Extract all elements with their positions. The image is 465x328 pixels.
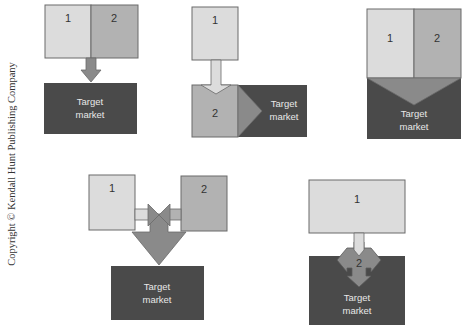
target-label-line2: market: [342, 305, 371, 316]
label-1: 1: [387, 32, 393, 44]
label-2: 2: [434, 32, 440, 44]
label-1: 1: [109, 182, 115, 194]
diagram-4: 1 2 Target market: [89, 175, 227, 320]
box-1: [309, 180, 405, 233]
copyright-notice: Copyright © Kendall Hunt Publishing Comp…: [4, 0, 20, 328]
target-label-line2: market: [75, 109, 104, 120]
connector-left: [135, 209, 149, 220]
label-1: 1: [354, 193, 360, 205]
label-2: 2: [212, 107, 218, 119]
label-2: 2: [201, 183, 207, 195]
target-label-line2: market: [269, 111, 298, 122]
label-2: 2: [356, 257, 362, 269]
target-label-line2: market: [399, 121, 428, 132]
diagram-5: 1 2 Target market: [309, 180, 405, 325]
target-label-line1: Target: [344, 292, 371, 303]
target-market-box: [111, 266, 204, 320]
diagram-1: 1 2 Target market: [44, 5, 138, 134]
connector-right: [169, 209, 181, 220]
diagram-canvas: 1 2 Target market 1 2 Target market 1 2 …: [0, 0, 465, 328]
label-1: 1: [65, 12, 71, 24]
target-label-line2: market: [142, 294, 171, 305]
diagram-3: 1 2 Target market: [367, 9, 461, 139]
arrow-down-icon: [81, 58, 101, 82]
label-2: 2: [111, 12, 117, 24]
target-label-line1: Target: [401, 108, 428, 119]
label-1: 1: [212, 14, 218, 26]
target-label-line1: Target: [77, 96, 104, 107]
target-label-line1: Target: [144, 281, 171, 292]
target-label-line1: Target: [271, 98, 298, 109]
diagram-2: 1 2 Target market: [192, 7, 307, 137]
arrow-down-icon: [132, 214, 186, 265]
